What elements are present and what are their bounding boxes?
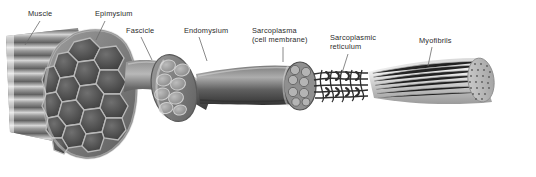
epimysium-cross-section: [42, 30, 137, 158]
muscle-fiber-tube: [196, 65, 296, 104]
leader-line-endomysium: [199, 37, 207, 61]
sarcoplasmic-reticulum-network: [314, 70, 368, 102]
muscle-structure-diagram: Muscle Epimysium Fascicle Endomysium Sar…: [0, 0, 536, 177]
muscle-fiber-cross-section: [284, 62, 317, 110]
leader-line-fascicle: [141, 37, 152, 60]
diagram-illustration: [0, 0, 536, 177]
myofibril-cylinder: [368, 57, 497, 105]
leader-line-sarcoplasmic-reticulum: [342, 54, 348, 73]
